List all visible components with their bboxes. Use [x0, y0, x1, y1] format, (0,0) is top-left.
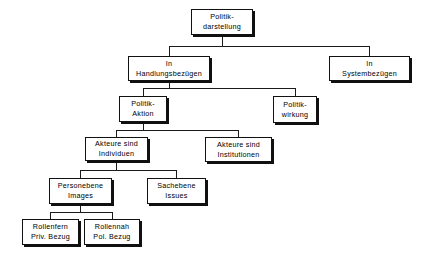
node-label-line2: Handlungsbezügen: [136, 69, 202, 79]
node-label-line1: Rollenfern: [33, 222, 68, 232]
node-label-line2: Systembezügen: [342, 69, 397, 79]
node-label-line1: Politik-: [210, 12, 234, 22]
node-label-line1: Politik-: [131, 99, 155, 109]
node-politik-wirkung[interactable]: Politik-wirkung: [273, 96, 317, 123]
node-label-line2: Individuen: [99, 149, 134, 159]
node-in-systembezuegen[interactable]: InSystembezügen: [329, 56, 410, 81]
node-rollennah-pol-bezug[interactable]: RollennahPol. Bezug: [84, 219, 140, 245]
node-rollenfern-priv-bezug[interactable]: RollenfernPriv. Bezug: [22, 219, 79, 245]
node-label-line1: Akteure sind: [95, 139, 138, 149]
node-politik-aktion[interactable]: Politik-Aktion: [119, 96, 167, 122]
node-politik-darstellung[interactable]: Politik-darstellung: [191, 9, 253, 35]
node-label-line2: Priv. Bezug: [31, 232, 70, 242]
node-label-line2: Issues: [165, 191, 187, 201]
node-akteure-sind-institutionen[interactable]: Akteure sindInstitutionen: [205, 137, 272, 162]
node-label-line1: Personebene: [58, 181, 104, 191]
node-label-line1: Akteure sind: [217, 140, 260, 150]
node-label-line2: Institutionen: [217, 150, 259, 160]
node-label-line2: Aktion: [132, 109, 153, 119]
node-label-line2: darstellung: [203, 22, 241, 32]
node-sachebene-issues[interactable]: SachebeneIssues: [147, 178, 206, 204]
tree-diagram: Politik-darstellungInHandlungsbezügenInS…: [0, 0, 434, 267]
node-akteure-sind-individuen[interactable]: Akteure sindIndividuen: [85, 137, 148, 161]
node-label-line1: Sachebene: [157, 181, 196, 191]
node-label-line1: In: [166, 59, 173, 69]
node-label-line1: Politik-: [283, 100, 307, 110]
node-label-line1: In: [366, 59, 373, 69]
node-label-line2: Images: [68, 191, 93, 201]
node-label-line2: wirkung: [282, 110, 309, 120]
node-label-line1: Rollennah: [95, 222, 130, 232]
node-label-line2: Pol. Bezug: [93, 232, 130, 242]
node-in-handlungsbezuegen[interactable]: InHandlungsbezügen: [128, 56, 210, 81]
node-personebene-images[interactable]: PersonebeneImages: [49, 178, 112, 204]
